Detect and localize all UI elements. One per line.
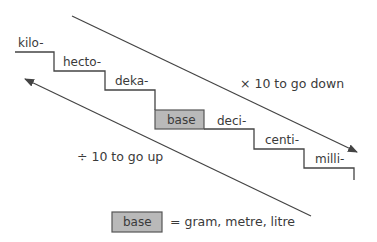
step-label-kilo: kilo- [18, 36, 44, 50]
step-label-milli: milli- [315, 152, 344, 166]
step-label-deci: deci- [217, 114, 246, 128]
divide-up-text: ÷ 10 to go up [77, 149, 163, 164]
legend-text: = gram, metre, litre [170, 214, 295, 229]
multiply-down-text: × 10 to go down [240, 76, 344, 91]
metric-staircase-diagram: kilo- hecto- deka- base deci- centi- mil… [0, 0, 377, 242]
legend-base-label: base [123, 215, 152, 229]
step-label-centi: centi- [265, 133, 299, 147]
step-label-base: base [167, 113, 196, 127]
step-label-hecto: hecto- [63, 55, 101, 69]
step-label-deka: deka- [115, 74, 148, 88]
divide-up-arrow [25, 79, 311, 216]
